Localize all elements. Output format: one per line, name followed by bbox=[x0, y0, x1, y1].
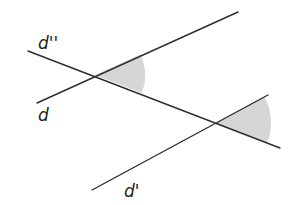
label-d: d bbox=[38, 105, 49, 125]
label-d-prime: d' bbox=[124, 181, 139, 201]
line-d-double-prime bbox=[28, 51, 280, 148]
parallel-lines-transversal-diagram: d'' d d' bbox=[0, 0, 290, 205]
label-d-double-prime: d'' bbox=[38, 33, 58, 53]
